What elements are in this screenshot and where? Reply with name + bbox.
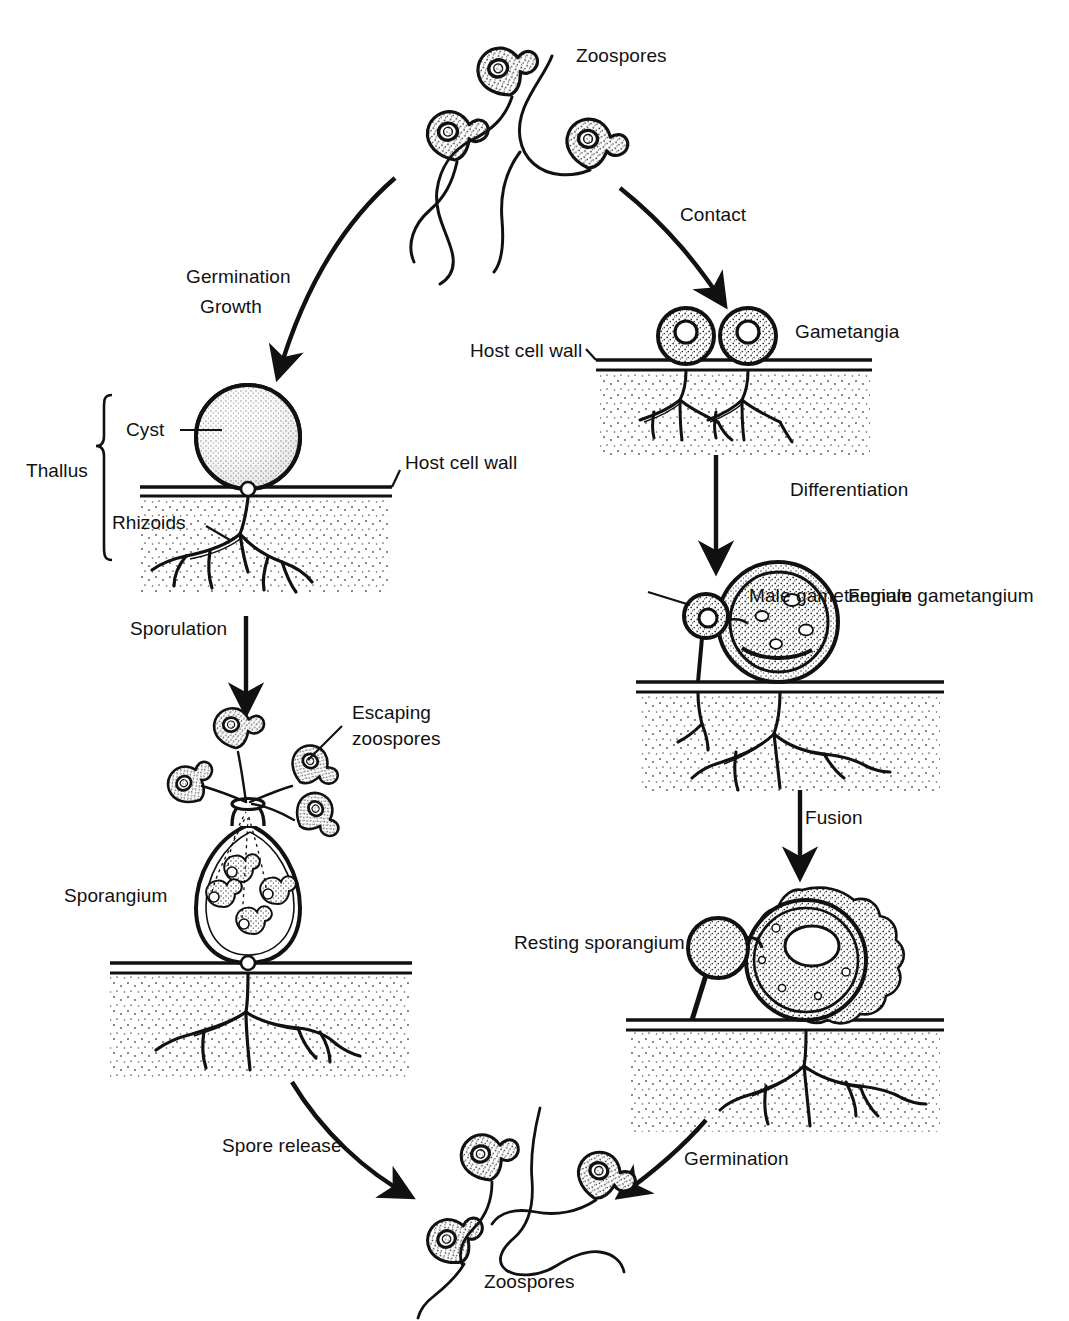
resting-sporangium-group [626, 888, 944, 1132]
zoospores-top-group [411, 37, 630, 284]
label-cyst: Cyst [126, 418, 164, 441]
label-fusion: Fusion [805, 806, 863, 829]
label-sporangium: Sporangium [64, 884, 167, 907]
label-female-gametangium: Female gametangium [848, 584, 1034, 607]
arrow-germination-growth [278, 178, 395, 376]
label-zoospores-bottom: Zoospores [484, 1270, 575, 1293]
label-thallus: Thallus [26, 459, 88, 482]
label-germination-growth-line2: Growth [200, 295, 262, 318]
label-escaping-zoospores-line2: zoospores [352, 727, 441, 750]
label-host-cell-wall-left: Host cell wall [405, 451, 517, 474]
label-escaping-zoospores-line1: Escaping [352, 701, 431, 724]
label-contact: Contact [680, 203, 746, 226]
label-gametangia: Gametangia [795, 320, 900, 343]
label-germination-bottom: Germination [684, 1147, 789, 1170]
label-sporulation: Sporulation [130, 617, 227, 640]
label-zoospores-top: Zoospores [576, 44, 667, 67]
diagram-artwork [0, 0, 1069, 1321]
label-resting-sporangium: Resting sporangium [514, 931, 685, 954]
label-differentiation: Differentiation [790, 478, 908, 501]
leader-host-wall-left [392, 470, 400, 487]
life-cycle-diagram: Zoospores Contact Germination Growth Gam… [0, 0, 1069, 1321]
label-host-cell-wall-right: Host cell wall [470, 339, 582, 362]
leader-host-wall-right [586, 349, 596, 360]
label-germination-growth-line1: Germination [186, 265, 291, 288]
thallus-brace [96, 395, 112, 560]
label-spore-release: Spore release [222, 1134, 342, 1157]
leader-male-gametangium [648, 592, 690, 605]
label-rhizoids: Rhizoids [112, 511, 186, 534]
thallus-stage-group [96, 385, 400, 592]
